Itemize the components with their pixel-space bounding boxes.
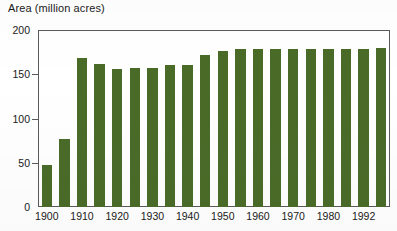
y-axis-tick-label: 50 bbox=[4, 157, 30, 169]
y-axis-tick-mark bbox=[32, 163, 39, 164]
x-axis-tick-label: 1920 bbox=[97, 210, 137, 222]
x-axis-tick-label: 1970 bbox=[273, 210, 313, 222]
tick-layer: 0501001502001900191019201930194019501960… bbox=[0, 0, 397, 231]
x-axis-tick-label: 1930 bbox=[132, 210, 172, 222]
bar-chart-figure: Area (million acres) 0501001502001900191… bbox=[0, 0, 397, 231]
y-axis-tick-label: 200 bbox=[4, 24, 30, 36]
x-axis-tick-label: 1980 bbox=[308, 210, 348, 222]
y-axis-tick-label: 100 bbox=[4, 113, 30, 125]
x-axis-tick-label: 1992 bbox=[344, 210, 384, 222]
y-axis-tick-mark bbox=[32, 74, 39, 75]
x-axis-tick-label: 1900 bbox=[27, 210, 67, 222]
x-axis-tick-label: 1960 bbox=[238, 210, 278, 222]
x-axis-tick-label: 1910 bbox=[62, 210, 102, 222]
y-axis-tick-label: 150 bbox=[4, 68, 30, 80]
x-axis-tick-label: 1950 bbox=[203, 210, 243, 222]
y-axis-tick-mark bbox=[32, 119, 39, 120]
x-axis-tick-label: 1940 bbox=[168, 210, 208, 222]
